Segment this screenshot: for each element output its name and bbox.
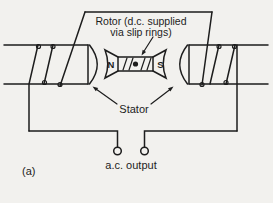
left-stator-core (4, 45, 97, 84)
ac-output-label: a.c. output (105, 159, 156, 171)
north-pole-label: N (108, 59, 115, 70)
left-stator-winding (29, 45, 62, 132)
left-output-terminal (114, 147, 122, 155)
alternator-diagram: Rotor (d.c. supplied via slip rings) N S… (0, 0, 273, 203)
slip-ring-dot (133, 61, 138, 66)
right-stator-core (180, 45, 268, 84)
output-circuit (29, 131, 237, 155)
rotor-caption-line2: via slip rings) (110, 26, 171, 38)
left-pole-face-arc (90, 45, 98, 84)
panel-label: (a) (22, 165, 35, 177)
stator-pointer-arrow-right (151, 87, 174, 105)
right-pole-face-arc (180, 45, 188, 84)
right-output-terminal (141, 147, 149, 155)
stator-label: Stator (119, 103, 149, 115)
south-pole-label: S (157, 59, 163, 70)
alternator-diagram-figure: Rotor (d.c. supplied via slip rings) N S… (0, 0, 273, 203)
rotor-pointer-arrow (142, 37, 154, 56)
stator-pointer-arrow-left (93, 87, 118, 105)
